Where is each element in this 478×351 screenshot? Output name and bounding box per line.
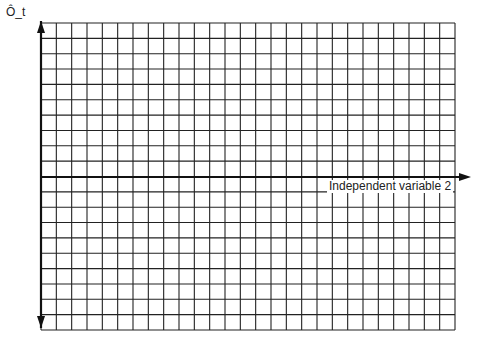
arrow-down-icon	[37, 316, 45, 328]
arrow-right-icon	[459, 173, 471, 181]
graph-grid	[0, 0, 478, 351]
y-axis-label-text: Ô_t	[6, 5, 25, 19]
x-axis-label: Independent variable 2	[327, 180, 453, 193]
y-axis-label: Ô_t	[6, 6, 25, 19]
